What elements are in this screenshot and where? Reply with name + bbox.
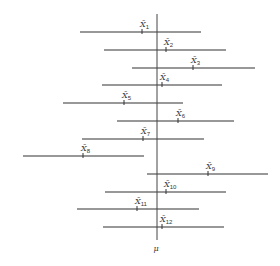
interval-6: X̄6 xyxy=(117,109,234,123)
interval-10: X̄10 xyxy=(105,180,226,194)
interval-12: X̄12 xyxy=(103,215,224,229)
interval-5: X̄5 xyxy=(63,91,183,105)
interval-group: X̄1X̄2X̄3X̄4X̄5X̄6X̄7X̄8X̄9X̄10X̄11X̄12 xyxy=(23,20,268,229)
mu-label: μ xyxy=(153,244,158,253)
interval-3: X̄3 xyxy=(132,56,255,70)
confidence-interval-diagram: X̄1X̄2X̄3X̄4X̄5X̄6X̄7X̄8X̄9X̄10X̄11X̄12 … xyxy=(0,0,280,266)
sample-mean-label: X̄10 xyxy=(163,180,177,190)
interval-7: X̄7 xyxy=(82,127,204,141)
interval-8: X̄8 xyxy=(23,144,144,158)
interval-1: X̄1 xyxy=(80,20,201,34)
sample-mean-label: X̄7 xyxy=(140,127,151,137)
sample-mean-label: X̄5 xyxy=(121,91,132,101)
sample-mean-label: X̄11 xyxy=(134,197,148,207)
sample-mean-label: X̄1 xyxy=(139,20,150,30)
sample-mean-label: X̄9 xyxy=(205,162,216,172)
interval-4: X̄4 xyxy=(102,73,222,87)
sample-mean-label: X̄4 xyxy=(159,73,170,83)
sample-mean-label: X̄3 xyxy=(190,56,201,66)
interval-2: X̄2 xyxy=(104,38,226,52)
sample-mean-label: X̄12 xyxy=(159,215,173,225)
sample-mean-label: X̄8 xyxy=(80,144,91,154)
interval-9: X̄9 xyxy=(147,162,268,176)
sample-mean-label: X̄6 xyxy=(175,109,186,119)
interval-11: X̄11 xyxy=(77,197,199,211)
sample-mean-label: X̄2 xyxy=(163,38,174,48)
